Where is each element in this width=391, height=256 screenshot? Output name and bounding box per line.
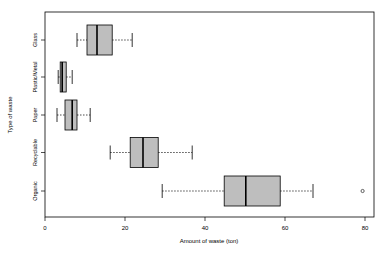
box-plastic-metal <box>58 62 72 92</box>
y-axis: OrganicRecyclablePaperPlastic/MetalGlass <box>32 33 45 201</box>
y-tick-label: Glass <box>32 33 38 47</box>
x-tick-label: 60 <box>282 225 289 231</box>
x-tick-label: 20 <box>122 225 129 231</box>
iqr-box <box>65 100 77 130</box>
y-tick-label: Recyclable <box>32 139 38 166</box>
x-tick-label: 80 <box>362 225 369 231</box>
x-axis: 020406080 <box>43 217 369 231</box>
x-axis-label: Amount of waste (ton) <box>180 238 239 244</box>
y-tick-label: Organic <box>32 181 38 201</box>
iqr-box <box>130 138 158 168</box>
iqr-box <box>224 176 280 206</box>
x-tick-label: 40 <box>202 225 209 231</box>
outlier-point <box>361 189 364 192</box>
iqr-box <box>60 62 66 92</box>
x-tick-label: 0 <box>43 225 47 231</box>
chart-canvas: 020406080 OrganicRecyclablePaperPlastic/… <box>0 0 391 256</box>
box-recyclable <box>110 138 192 168</box>
iqr-box <box>87 25 112 55</box>
y-tick-label: Plastic/Metal <box>32 61 38 92</box>
y-tick-label: Paper <box>32 107 38 122</box>
box-organic <box>162 176 364 206</box>
box-paper <box>57 100 90 130</box>
boxplot-chart: 020406080 OrganicRecyclablePaperPlastic/… <box>0 0 391 256</box>
box-glass <box>77 25 132 55</box>
box-group <box>57 25 364 206</box>
y-axis-label: Type of waste <box>7 96 13 134</box>
